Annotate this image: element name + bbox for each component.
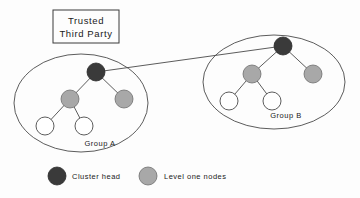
node-a-l1-2	[115, 90, 133, 108]
legend-cluster-head-label: Cluster head	[72, 172, 121, 181]
legend-level-one-label: Level one nodes	[164, 172, 227, 181]
node-a-head	[87, 63, 105, 81]
node-b-head	[274, 37, 292, 55]
node-a-l1-1	[61, 90, 79, 108]
node-a-leaf-2	[75, 117, 93, 135]
legend: Cluster headLevel one nodes	[48, 167, 227, 185]
cluster-diagram: Group A Group B Trusted Third Party Clus…	[0, 0, 360, 198]
node-b-l1-1	[243, 65, 261, 83]
node-b-l1-2	[304, 65, 322, 83]
node-b-leaf-1	[220, 92, 238, 110]
diagram-canvas: Group A Group B Trusted Third Party Clus…	[0, 0, 360, 198]
legend-level-one-swatch	[139, 167, 157, 185]
node-a-leaf-1	[36, 117, 54, 135]
trusted-third-party-line1: Trusted	[68, 15, 104, 26]
group-a-label: Group A	[84, 139, 115, 148]
group-b-label: Group B	[270, 111, 301, 120]
node-b-leaf-2	[263, 92, 281, 110]
trusted-third-party-line2: Third Party	[59, 28, 112, 39]
legend-cluster-head-swatch	[48, 167, 66, 185]
tree-nodes-layer	[36, 37, 322, 135]
